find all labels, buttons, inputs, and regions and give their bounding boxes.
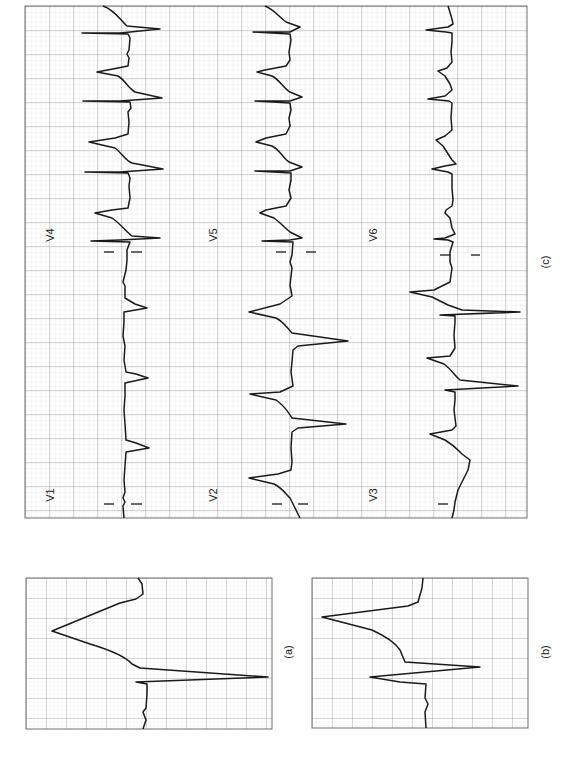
panel-label-c: (c) — [539, 256, 551, 269]
panel-b: (b) — [312, 578, 551, 728]
lead-label-v6: V6 — [367, 228, 379, 241]
lead-label-v4: V4 — [44, 228, 56, 241]
ecg-figure: V4 V5 V6 V1 V2 V3 (c) (a) (b) — [0, 0, 574, 762]
panel-a-grid — [26, 578, 272, 729]
panel-b-grid — [312, 578, 528, 728]
panel-label-b: (b) — [539, 645, 551, 658]
panel-c: V4 V5 V6 V1 V2 V3 (c) — [25, 6, 551, 518]
panel-c-grid — [25, 6, 527, 518]
panel-label-a: (a) — [282, 645, 294, 658]
lead-label-v5: V5 — [207, 228, 219, 241]
lead-label-v1: V1 — [44, 488, 56, 501]
panel-a: (a) — [26, 578, 294, 729]
lead-label-v3: V3 — [367, 488, 379, 501]
lead-label-v2: V2 — [207, 488, 219, 501]
